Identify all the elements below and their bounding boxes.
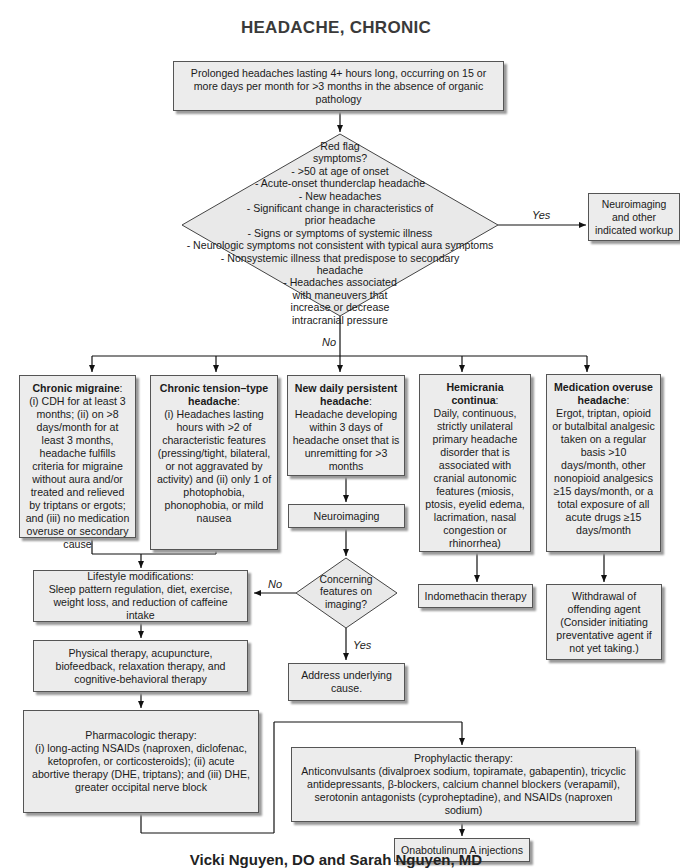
red-flag-item: - New headaches <box>190 190 490 202</box>
indomethacin-box: Indomethacin therapy <box>418 584 533 608</box>
type-name: New daily persistent headache <box>295 382 397 407</box>
type-desc: (i) Headaches lasting hours with >2 of c… <box>155 408 273 525</box>
red-flag-item: - Neurologic symptoms not consistent wit… <box>180 239 500 251</box>
hemicrania-continua-box: Hemicrania continua: Daily, continuous, … <box>419 374 531 552</box>
type-desc: Headache developing within 3 days of hea… <box>292 408 400 473</box>
red-flag-item: - Significant change in characteristics … <box>245 202 435 227</box>
red-flag-decision: Red flag symptoms? - >50 at age of onset… <box>190 140 490 326</box>
concerning-features-decision: Concerning features on imaging? <box>310 574 382 611</box>
concerning-no-label: No <box>268 578 282 590</box>
concerning-yes-label: Yes <box>353 639 371 651</box>
physical-therapy-box: Physical therapy, acupuncture, biofeedba… <box>33 640 248 692</box>
withdrawal-box: Withdrawal of offending agent (Consider … <box>546 584 662 660</box>
red-flag-item: - Nonsystemic illness that predispose to… <box>220 252 460 277</box>
type-desc: Ergot, triptan, opioid or butalbital ana… <box>551 407 656 537</box>
address-cause-box: Address underlying cause. <box>288 663 405 701</box>
red-flag-item: - Acute-onset thunderclap headache <box>190 177 490 189</box>
type-name: Chronic tension–type headache <box>160 382 268 407</box>
chronic-migraine-box: Chronic migraine: (i) CDH for at least 3… <box>19 375 136 538</box>
type-desc: (i) CDH for at least 3 months; (ii) on >… <box>24 395 131 551</box>
lifestyle-box: Lifestyle modifications: Sleep pattern r… <box>33 570 248 622</box>
type-name: Chronic migraine <box>32 382 119 394</box>
red-flag-item: - Headaches associated with maneuvers th… <box>280 276 400 326</box>
red-flag-question: Red flag symptoms? <box>305 140 375 165</box>
red-flag-item: - >50 at age of onset <box>190 165 490 177</box>
type-name: Hemicrania continua <box>446 381 503 406</box>
pharmacologic-box: Pharmacologic therapy: (i) long-acting N… <box>23 710 259 813</box>
yes-label: Yes <box>532 209 550 221</box>
neuroimaging-box: Neuroimaging <box>288 504 405 528</box>
new-daily-persistent-box: New daily persistent headache: Headache … <box>287 375 405 476</box>
red-flag-item: - Signs or symptoms of systemic illness <box>190 227 490 239</box>
start-criteria-box: Prolonged headaches lasting 4+ hours lon… <box>173 61 504 111</box>
chronic-tension-box: Chronic tension–type headache: (i) Heada… <box>150 375 278 550</box>
type-name: Medication overuse headache <box>554 381 653 406</box>
neuroimaging-workup-box: Neuroimaging and other indicated workup <box>588 193 680 241</box>
type-desc: Daily, continuous, strictly unilateral p… <box>424 407 526 550</box>
author-credit: Vicki Nguyen, DO and Sarah Nguyen, MD <box>0 851 672 868</box>
start-criteria-text: Prolonged headaches lasting 4+ hours lon… <box>178 67 499 106</box>
prophylactic-box: Prophylactic therapy: Anticonvulsants (d… <box>291 747 636 822</box>
no-label: No <box>322 336 336 348</box>
medication-overuse-box: Medication overuse headache: Ergot, trip… <box>546 374 661 552</box>
